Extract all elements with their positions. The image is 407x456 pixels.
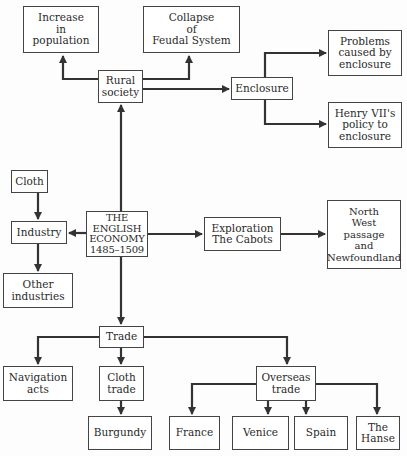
node-rural-society: Rural society (98, 70, 143, 103)
node-enclosure: Enclosure (231, 77, 293, 100)
node-other-industries: Other industries (3, 273, 73, 308)
node-exploration-cabots: Exploration The Cabots (204, 217, 281, 251)
edge-trade-overseas (144, 337, 287, 364)
edge-overseas-france (192, 384, 256, 414)
node-burgundy: Burgundy (88, 416, 152, 450)
diagram-canvas: Increase in population Collapse of Feuda… (0, 0, 407, 456)
node-cloth-trade: Cloth trade (99, 366, 144, 401)
node-spain: Spain (294, 416, 348, 450)
edge-rural-population (63, 56, 98, 79)
edge-trade-navigation (38, 337, 99, 364)
node-henry-policy: Henry VII's policy to enclosure (328, 102, 402, 148)
node-venice: Venice (232, 416, 289, 450)
node-overseas-trade: Overseas trade (256, 366, 316, 401)
node-france: France (169, 416, 220, 450)
node-industry: Industry (11, 221, 67, 244)
node-collapse-feudal-system: Collapse of Feudal System (143, 6, 240, 53)
edge-rural-feudal (143, 56, 189, 79)
edge-overseas-hanse (316, 384, 377, 414)
node-cloth: Cloth (11, 170, 48, 193)
node-increase-population: Increase in population (23, 6, 99, 53)
node-navigation-acts: Navigation acts (3, 366, 73, 401)
edge-enclosure-problems (265, 53, 326, 77)
node-english-economy: THE ENGLISH ECONOMY 1485–1509 (86, 211, 148, 257)
node-north-west-passage: North West passage and Newfoundland (327, 200, 401, 269)
edge-enclosure-henry (265, 100, 326, 124)
node-the-hanse: The Hanse (356, 416, 400, 450)
node-trade: Trade (99, 326, 144, 348)
node-problems-enclosure: Problems caused by enclosure (328, 30, 402, 76)
